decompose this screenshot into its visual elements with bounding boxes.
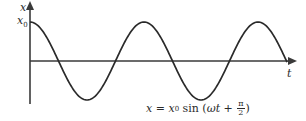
- x-axis-label: t: [287, 68, 291, 79]
- pi-over-two: π2: [237, 100, 244, 117]
- equation-label: x = x0 sin ( ωt + π2 ): [146, 100, 250, 117]
- x-axis-arrow-icon: [288, 57, 297, 65]
- y-tick-x0: x0: [17, 15, 28, 29]
- y-axis-arrow-icon: [26, 1, 34, 10]
- y-axis-label: x: [20, 2, 26, 13]
